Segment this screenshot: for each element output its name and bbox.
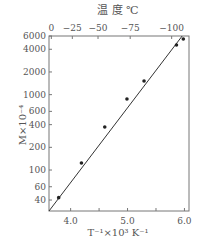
x-axis-label: T⁻¹×10³ K⁻¹	[87, 227, 148, 238]
y-tick-label: 1000	[23, 90, 46, 100]
y-tick-label: 600	[29, 106, 46, 116]
plot-frame	[49, 36, 189, 211]
y-axis-label: M×10⁻⁴	[17, 105, 28, 146]
y-tick-label: 4000	[23, 44, 46, 54]
y-tick-label: 2000	[23, 67, 46, 77]
top-tick-label: 0	[48, 23, 54, 33]
data-point	[57, 196, 61, 200]
top-axis-ticks: 0−25−50−75−100	[48, 23, 184, 39]
data-point	[142, 79, 146, 83]
top-tick-label: −25	[63, 23, 82, 33]
chart-title: 温 度 ℃	[97, 3, 138, 17]
x-tick-label: 6.0	[177, 216, 192, 226]
data-point	[125, 97, 129, 101]
y-tick-label: 200	[29, 142, 46, 152]
data-point	[182, 37, 186, 41]
y-tick-label: 400	[29, 120, 46, 130]
y-tick-label: 6000	[23, 31, 46, 41]
data-point	[175, 43, 179, 47]
data-point	[80, 161, 84, 165]
x-tick-label: 5.0	[120, 216, 135, 226]
x-tick-label: 4.0	[63, 216, 78, 226]
data-point	[103, 125, 107, 129]
plot-svg: 温 度 ℃ 0−25−50−75−100 4060100200400600100…	[0, 0, 206, 249]
y-tick-label: 40	[35, 195, 47, 205]
chart: 温 度 ℃ 0−25−50−75−100 4060100200400600100…	[0, 0, 206, 249]
fit-line	[49, 36, 182, 211]
top-tick-label: −50	[89, 23, 108, 33]
top-tick-label: −100	[159, 23, 184, 33]
y-tick-label: 100	[29, 165, 46, 175]
top-tick-label: −75	[121, 23, 140, 33]
y-tick-label: 60	[35, 182, 47, 192]
